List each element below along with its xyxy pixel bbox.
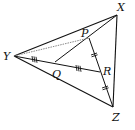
tick-marks-rz: [102, 86, 109, 90]
tick-marks-yq: [32, 56, 37, 63]
label-z: Z: [111, 111, 120, 124]
label-x: X: [116, 1, 126, 14]
label-p: P: [80, 27, 89, 40]
label-r: R: [102, 65, 111, 78]
segment-xy: [14, 15, 117, 56]
tick-marks-qr: [76, 65, 81, 72]
triangle-diagram: X Y Z P Q R: [0, 0, 135, 130]
label-q: Q: [52, 68, 61, 81]
label-y: Y: [3, 50, 12, 63]
tick-marks-pr: [91, 53, 98, 57]
segment-xz: [113, 15, 117, 107]
